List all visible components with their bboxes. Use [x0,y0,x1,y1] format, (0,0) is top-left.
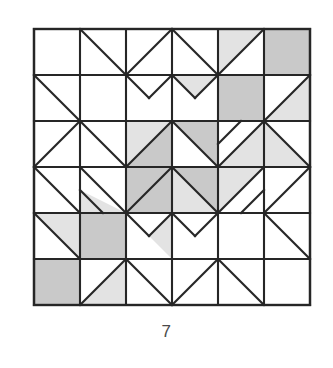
quilt-block-diagram [0,0,333,368]
quilt-figure: 7 [0,0,333,368]
figure-caption-number: 7 [0,322,333,342]
